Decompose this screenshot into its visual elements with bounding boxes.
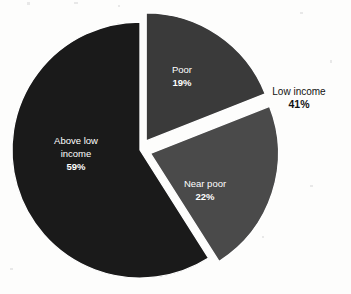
pie-callout-low-income: Low income 41% [272, 86, 326, 110]
pie-chart-canvas: Poor 19% Near poor 22% Above low income … [0, 0, 351, 294]
pie-label-above-low-income-line2: income [61, 148, 92, 159]
pie-label-poor-pct: 19% [172, 77, 192, 88]
pie-label-above-low-income-line1: Above low [54, 135, 98, 146]
pie-label-near-poor-pct: 22% [195, 191, 215, 202]
pie-label-poor-name: Poor [172, 64, 192, 75]
pie-callout-low-income-pct: 41% [288, 98, 310, 110]
pie-label-near-poor-name: Near poor [184, 178, 226, 189]
pie-callout-low-income-name: Low income [272, 86, 326, 97]
pie-label-above-low-income-pct: 59% [66, 161, 86, 172]
pie-slices-group [12, 13, 278, 278]
pie-chart-figure: Poor 19% Near poor 22% Above low income … [0, 0, 351, 294]
